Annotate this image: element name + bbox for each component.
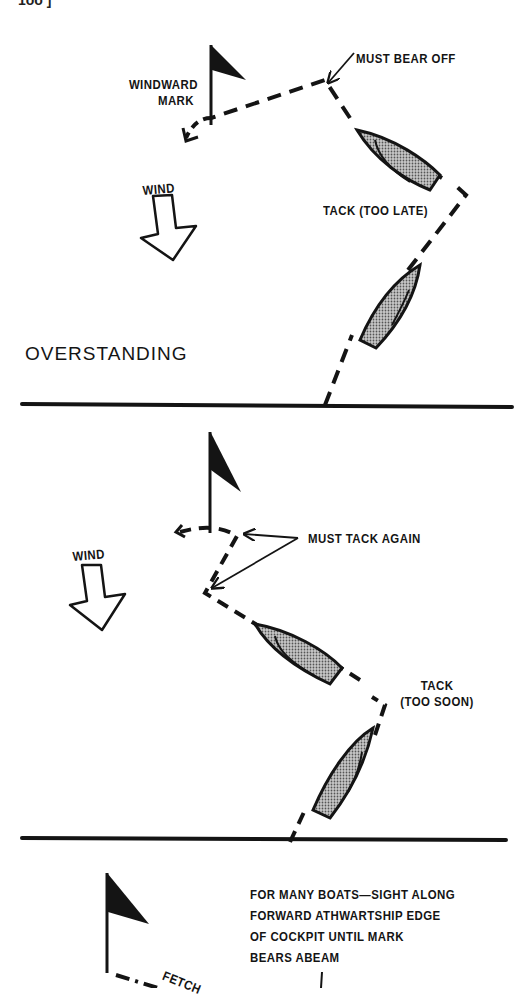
- must-tack-again-label: MUST TACK AGAIN: [308, 531, 421, 547]
- tack-too-soon-label: TACK (TOO SOON): [397, 678, 476, 710]
- wind-arrow-icon: [141, 195, 196, 260]
- windward-mark-label: WINDWARD MARK: [129, 77, 194, 109]
- sighting-note-line-2: FORWARD ATHWARTSHIP EDGE: [250, 905, 455, 926]
- starting-line: [22, 838, 506, 840]
- boat-icon: [360, 265, 420, 348]
- sighting-note: FOR MANY BOATS—SIGHT ALONG FORWARD ATHWA…: [250, 884, 455, 968]
- tack-too-soon-line-1: TACK: [397, 678, 476, 694]
- overstanding-title: OVERSTANDING: [25, 346, 188, 362]
- sighting-note-line-1: FOR MANY BOATS—SIGHT ALONG: [250, 884, 455, 905]
- starting-line: [22, 404, 512, 407]
- boat-icon: [255, 624, 342, 684]
- sighting-note-line-4: BEARS ABEAM: [250, 947, 455, 968]
- wind-label: WIND: [142, 180, 176, 199]
- boat-icon: [357, 130, 440, 190]
- must-bear-off-label: MUST BEAR OFF: [356, 51, 456, 67]
- windward-mark-flag-icon: [210, 432, 241, 533]
- diagram-too-soon: [22, 432, 506, 842]
- wind-label: WIND: [72, 546, 106, 565]
- sighting-note-line-3: OF COCKPIT UNTIL MARK: [250, 926, 455, 947]
- windward-mark-flag-icon: [107, 873, 149, 973]
- tack-too-late-label: TACK (TOO LATE): [323, 203, 428, 219]
- windward-mark-line-1: WINDWARD: [129, 77, 194, 93]
- tack-too-soon-line-2: (TOO SOON): [397, 694, 476, 710]
- windward-mark-line-2: MARK: [129, 93, 194, 109]
- boat-icon: [313, 728, 373, 818]
- wind-arrow-icon: [70, 565, 125, 630]
